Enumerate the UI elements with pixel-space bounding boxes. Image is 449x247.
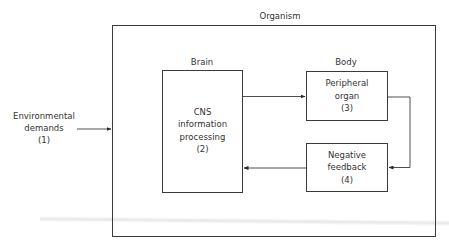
peripheral-to-feedback-arrow <box>388 97 410 168</box>
connector-lines <box>0 0 449 247</box>
diagram-canvas: Organism Environmental demands (1) Brain… <box>0 0 449 247</box>
